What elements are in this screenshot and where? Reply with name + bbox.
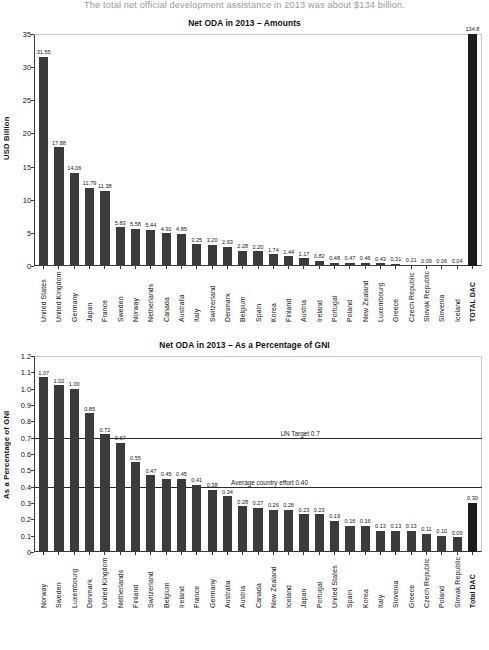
bar-slot: 0.45 bbox=[174, 356, 189, 552]
x-tick-mark bbox=[258, 266, 259, 269]
bar: 0.30 bbox=[468, 503, 477, 552]
x-tick-mark bbox=[319, 266, 320, 269]
x-axis-category-label: Portugal bbox=[331, 271, 338, 322]
x-label-slot: Spain bbox=[342, 557, 357, 608]
x-tick bbox=[342, 266, 357, 269]
bar-slot: 0.47 bbox=[342, 34, 357, 266]
x-tick-mark bbox=[89, 552, 90, 555]
x-axis-labels-amounts: United StatesUnited KingdomGermanyJapanF… bbox=[34, 271, 482, 322]
x-tick bbox=[220, 552, 235, 555]
x-label-slot: Sweden bbox=[51, 557, 66, 608]
x-axis-category-label: Austria bbox=[300, 271, 307, 322]
x-tick bbox=[220, 266, 235, 269]
x-tick-mark bbox=[334, 552, 335, 555]
x-tick bbox=[97, 266, 112, 269]
x-tick bbox=[327, 266, 342, 269]
bar-value-label: 0.30 bbox=[467, 496, 478, 503]
bar-value-label: 0.06 bbox=[436, 259, 447, 266]
x-tick-mark bbox=[43, 552, 44, 555]
bar: 0.13 bbox=[407, 531, 416, 552]
x-tick-mark bbox=[166, 266, 167, 269]
bar: 2.93 bbox=[223, 247, 232, 266]
bar-slot: 0.30 bbox=[465, 356, 480, 552]
x-tick bbox=[358, 266, 373, 269]
x-tick-mark bbox=[457, 266, 458, 269]
x-tick-mark bbox=[196, 552, 197, 555]
x-tick bbox=[388, 552, 403, 555]
x-label-slot: United States bbox=[36, 271, 51, 322]
x-label-slot: United Kingdom bbox=[97, 557, 112, 608]
bar-slot: 0.16 bbox=[358, 356, 373, 552]
bar: 0.45 bbox=[177, 479, 186, 553]
chart-title-amounts: Net ODA in 2013 – Amounts bbox=[0, 18, 489, 28]
bar-value-label: 0.45 bbox=[176, 472, 187, 479]
x-label-slot: Poland bbox=[434, 557, 449, 608]
x-axis-category-label: Finland bbox=[285, 271, 292, 322]
x-label-slot: Korea bbox=[358, 557, 373, 608]
x-tick bbox=[204, 552, 219, 555]
x-axis-category-label: United Kingdom bbox=[101, 557, 108, 608]
x-label-slot: Iceland bbox=[281, 557, 296, 608]
bar: 1.00 bbox=[70, 389, 79, 552]
x-tick-mark bbox=[58, 552, 59, 555]
bar-value-label: 11.38 bbox=[98, 184, 112, 191]
x-axis-category-label: Norway bbox=[40, 557, 47, 608]
bar-value-label: 0.55 bbox=[130, 456, 141, 463]
x-axis-category-label: Total DAC bbox=[469, 557, 476, 608]
bar-slot: 134.8 bbox=[465, 34, 480, 266]
bar-slot: 0.38 bbox=[204, 356, 219, 552]
bar-slot: 0.28 bbox=[235, 356, 250, 552]
bar: 1.07 bbox=[39, 377, 48, 552]
x-tick-mark bbox=[273, 266, 274, 269]
x-tick-mark bbox=[303, 266, 304, 269]
bar: 0.23 bbox=[315, 514, 324, 552]
x-label-slot: Germany bbox=[204, 557, 219, 608]
bar: 11.38 bbox=[100, 191, 109, 266]
x-axis-category-label: Czech Republic bbox=[408, 271, 415, 322]
x-tick-mark bbox=[365, 552, 366, 555]
bar-value-label: 0.48 bbox=[329, 256, 340, 263]
x-tick bbox=[404, 266, 419, 269]
x-label-slot: Slovenia bbox=[434, 271, 449, 322]
bar-value-label: 0.16 bbox=[360, 519, 371, 526]
x-axis-category-label: United States bbox=[40, 271, 47, 322]
bar-value-label: 0.09 bbox=[421, 259, 432, 266]
x-tick-mark bbox=[74, 552, 75, 555]
x-tick bbox=[312, 266, 327, 269]
bar-slot: 2.28 bbox=[235, 34, 250, 266]
bar: 1.02 bbox=[54, 385, 63, 552]
bar-slot: 0.09 bbox=[449, 356, 464, 552]
x-axis-category-label: Korea bbox=[362, 557, 369, 608]
x-tick-mark bbox=[196, 266, 197, 269]
bar: 0.41 bbox=[192, 485, 201, 552]
x-label-slot: Denmark bbox=[82, 557, 97, 608]
x-tick-mark bbox=[258, 552, 259, 555]
x-axis-category-label: Japan bbox=[86, 271, 93, 322]
x-tick-mark bbox=[273, 552, 274, 555]
x-tick bbox=[113, 552, 128, 555]
x-tick-mark bbox=[426, 552, 427, 555]
x-axis-category-label: Iceland bbox=[454, 271, 461, 322]
plot-area-gni: 00.10.20.30.40.50.60.70.80.91.01.11.2 UN… bbox=[34, 356, 482, 552]
bar-value-label: 4.91 bbox=[161, 227, 172, 234]
x-tick-mark bbox=[349, 266, 350, 269]
bar-value-label: 11.79 bbox=[83, 181, 97, 188]
bar: 0.38 bbox=[208, 490, 217, 552]
x-label-slot: Slovenia bbox=[388, 557, 403, 608]
x-tick-mark bbox=[181, 552, 182, 555]
y-axis-label-gni: As a Percentage of GNI bbox=[2, 370, 11, 540]
x-tick-mark bbox=[135, 552, 136, 555]
x-tick-mark bbox=[472, 266, 473, 269]
bar-slot: 3.20 bbox=[204, 34, 219, 266]
bar-value-label: 0.26 bbox=[283, 503, 294, 510]
bar-value-label: 1.17 bbox=[299, 252, 310, 259]
bar-value-label: 1.00 bbox=[69, 382, 80, 389]
x-label-slot: Italy bbox=[189, 271, 204, 322]
bar-slot: 0.11 bbox=[419, 356, 434, 552]
x-tick bbox=[128, 552, 143, 555]
x-axis-ticks-amounts bbox=[34, 266, 482, 269]
x-tick bbox=[266, 266, 281, 269]
x-label-slot: Netherlands bbox=[143, 271, 158, 322]
x-label-slot: Germany bbox=[67, 271, 82, 322]
x-label-slot: TOTAL DAC bbox=[465, 271, 480, 322]
